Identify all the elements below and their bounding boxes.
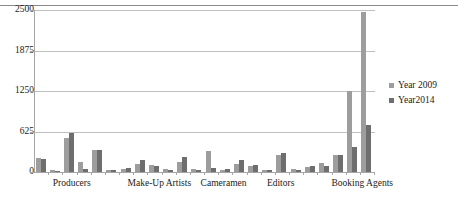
- bar-pair: [106, 10, 117, 172]
- bar-year-2014[interactable]: [55, 171, 60, 172]
- x-tick-mark: [232, 172, 233, 175]
- x-tick-mark: [62, 172, 63, 175]
- bar-year-2014[interactable]: [366, 125, 371, 172]
- bar-year-2014[interactable]: [324, 166, 329, 172]
- bar-pair: [291, 10, 302, 172]
- x-axis-label: Cameramen: [201, 178, 247, 188]
- x-axis-label: Producers: [53, 178, 91, 188]
- x-tick-mark: [176, 172, 177, 175]
- bar-pair: [333, 10, 344, 172]
- bar-pair: [319, 10, 330, 172]
- bar-pair: [36, 10, 47, 172]
- bar-pair: [206, 10, 217, 172]
- bar-year-2014[interactable]: [338, 155, 343, 172]
- bar-year-2014[interactable]: [267, 170, 272, 172]
- x-tick-mark: [91, 172, 92, 175]
- bars-layer: [34, 10, 374, 172]
- x-tick-mark: [133, 172, 134, 175]
- bar-pair: [78, 10, 89, 172]
- legend-item-year-2014[interactable]: Year2014: [389, 93, 437, 108]
- bar-year-2014[interactable]: [196, 170, 201, 172]
- legend-item-year-2009[interactable]: Year 2009: [389, 78, 437, 93]
- x-tick-mark: [105, 172, 106, 175]
- bar-pair: [276, 10, 287, 172]
- bar-pair: [135, 10, 146, 172]
- bar-year-2014[interactable]: [239, 160, 244, 172]
- bar-pair: [50, 10, 61, 172]
- bar-year-2014[interactable]: [168, 170, 173, 172]
- x-axis-label: Booking Agents: [332, 178, 394, 188]
- legend-swatch-year-2009: [389, 83, 394, 88]
- x-tick-mark: [289, 172, 290, 175]
- bar-year-2014[interactable]: [253, 165, 258, 172]
- x-tick-mark: [147, 172, 148, 175]
- bar-year-2014[interactable]: [41, 159, 46, 172]
- bar-year-2014[interactable]: [154, 166, 159, 172]
- legend: Year 2009 Year2014: [389, 78, 437, 107]
- bar-year-2014[interactable]: [69, 133, 74, 172]
- bar-year-2014[interactable]: [111, 170, 116, 172]
- bar-year-2014[interactable]: [140, 160, 145, 172]
- legend-swatch-year-2014: [389, 98, 394, 103]
- bar-year-2014[interactable]: [225, 169, 230, 172]
- bar-pair: [248, 10, 259, 172]
- bar-pair: [177, 10, 188, 172]
- x-tick-mark: [346, 172, 347, 175]
- bar-pair: [361, 10, 372, 172]
- bar-pair: [149, 10, 160, 172]
- bar-year-2014[interactable]: [352, 147, 357, 172]
- x-tick-mark: [218, 172, 219, 175]
- bar-pair: [234, 10, 245, 172]
- x-axis-label: Editors: [267, 178, 294, 188]
- bar-year-2014[interactable]: [182, 157, 187, 172]
- bar-year-2014[interactable]: [126, 168, 131, 172]
- x-tick-mark: [374, 172, 375, 175]
- bar-year-2014[interactable]: [296, 170, 301, 172]
- bar-pair: [305, 10, 316, 172]
- bar-year-2014[interactable]: [211, 168, 216, 172]
- x-tick-mark: [119, 172, 120, 175]
- x-tick-mark: [261, 172, 262, 175]
- legend-label-year-2009: Year 2009: [398, 78, 437, 93]
- x-tick-mark: [332, 172, 333, 175]
- x-tick-mark: [190, 172, 191, 175]
- x-tick-mark: [275, 172, 276, 175]
- bar-year-2014[interactable]: [310, 166, 315, 172]
- bar-pair: [121, 10, 132, 172]
- bar-pair: [220, 10, 231, 172]
- bar-pair: [191, 10, 202, 172]
- x-axis-label: Make-Up Artists: [128, 178, 192, 188]
- x-tick-mark: [303, 172, 304, 175]
- top-divider: [0, 5, 458, 6]
- x-tick-mark: [360, 172, 361, 175]
- x-tick-mark: [204, 172, 205, 175]
- x-tick-mark: [317, 172, 318, 175]
- bar-pair: [92, 10, 103, 172]
- x-tick-mark: [48, 172, 49, 175]
- bar-year-2014[interactable]: [83, 169, 88, 172]
- legend-label-year-2014: Year2014: [398, 93, 435, 108]
- chart-root: 2500187512506250 ProducersMake-Up Artist…: [0, 0, 458, 199]
- bar-pair: [347, 10, 358, 172]
- x-tick-mark: [162, 172, 163, 175]
- bar-pair: [262, 10, 273, 172]
- y-axis: 2500187512506250: [0, 0, 34, 199]
- bar-year-2014[interactable]: [281, 153, 286, 172]
- bar-pair: [64, 10, 75, 172]
- bar-pair: [163, 10, 174, 172]
- x-tick-mark: [247, 172, 248, 175]
- bar-year-2014[interactable]: [97, 150, 102, 172]
- x-tick-mark: [77, 172, 78, 175]
